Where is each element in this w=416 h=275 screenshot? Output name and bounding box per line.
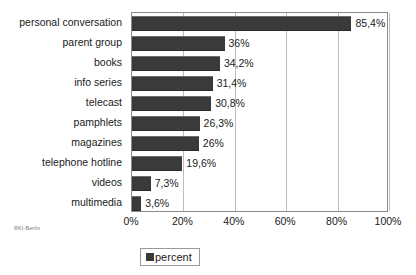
plot-area: 85,4%36%34,2%31,4%30,8%26,3%26%19,6%7,3%…: [131, 12, 388, 212]
x-tick-label: 20%: [172, 213, 193, 229]
category-label: parent group: [62, 32, 122, 52]
bar-row: 7,3%: [132, 173, 389, 193]
category-label: telephone hotline: [42, 152, 122, 172]
x-tick-label: 60%: [275, 213, 296, 229]
gridline: [389, 13, 390, 211]
legend-swatch-percent: [146, 253, 154, 261]
category-label: telecast: [86, 92, 122, 112]
bar-chart-figure: personal conversationparent groupbooksin…: [0, 0, 416, 275]
x-tick-label: 100%: [375, 213, 402, 229]
bar: [132, 176, 151, 191]
bar-value-label: 7,3%: [151, 173, 179, 193]
x-axis: 0%20%40%60%80%100%: [131, 213, 388, 229]
bar-value-label: 34,2%: [220, 53, 254, 73]
bar: [132, 196, 141, 211]
bar-row: 19,6%: [132, 153, 389, 173]
category-label: books: [94, 52, 122, 72]
x-tick-label: 40%: [223, 213, 244, 229]
bar: [132, 96, 211, 111]
bar: [132, 76, 213, 91]
x-tick-label: 0%: [123, 213, 138, 229]
bar-value-label: 19,6%: [182, 153, 216, 173]
bar-row: 30,8%: [132, 93, 389, 113]
category-label: pamphlets: [74, 112, 122, 132]
bar: [132, 36, 225, 51]
category-label: videos: [92, 172, 122, 192]
bar-row: 85,4%: [132, 13, 389, 33]
category-label: personal conversation: [19, 12, 122, 32]
legend-label-percent: percent: [155, 251, 192, 263]
bar-row: 26,3%: [132, 113, 389, 133]
bar-value-label: 26%: [199, 133, 224, 153]
bar-row: 36%: [132, 33, 389, 53]
bar-value-label: 85,4%: [351, 13, 385, 33]
category-label: magazines: [71, 132, 122, 152]
category-axis: personal conversationparent groupbooksin…: [0, 12, 126, 212]
bar-value-label: 36%: [225, 33, 250, 53]
bar-row: 26%: [132, 133, 389, 153]
bar-value-label: 26,3%: [200, 113, 234, 133]
bar: [132, 136, 199, 151]
bar-value-label: 30,8%: [211, 93, 245, 113]
source-note: RKI-Berlin: [14, 225, 40, 231]
bar: [132, 16, 351, 31]
bar: [132, 116, 200, 131]
category-label: multimedia: [71, 192, 122, 212]
bar-value-label: 31,4%: [213, 73, 247, 93]
bar: [132, 56, 220, 71]
bar-row: 31,4%: [132, 73, 389, 93]
bar: [132, 156, 182, 171]
x-tick-label: 80%: [326, 213, 347, 229]
bar-row: 34,2%: [132, 53, 389, 73]
chart-legend: percent: [140, 248, 200, 266]
bar-row: 3,6%: [132, 193, 389, 213]
bar-value-label: 3,6%: [141, 193, 169, 213]
category-label: info series: [74, 72, 122, 92]
